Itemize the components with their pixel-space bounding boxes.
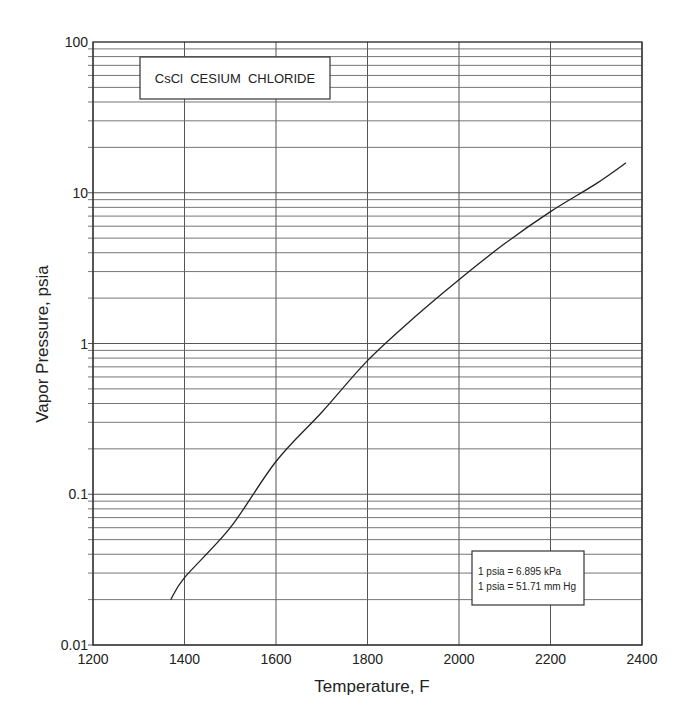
x-tick-label: 1400 (169, 651, 200, 667)
x-tick-label: 1600 (260, 651, 291, 667)
y-tick-label: 0.01 (61, 637, 88, 653)
vapor-pressure-chart: 1200140016001800200022002400 0.010.11101… (0, 0, 690, 725)
y-tick-label: 100 (65, 34, 89, 50)
y-tick-label: 1 (80, 336, 88, 352)
x-axis-ticks: 1200140016001800200022002400 (77, 651, 657, 667)
x-tick-label: 2200 (535, 651, 566, 667)
y-axis-ticks: 0.010.1110100 (61, 34, 88, 653)
x-tick-label: 2400 (626, 651, 657, 667)
x-tick-label: 1200 (77, 651, 108, 667)
x-tick-label: 2000 (443, 651, 474, 667)
x-axis-title: Temperature, F (314, 677, 429, 696)
conversion-note-box: 1 psia = 6.895 kPa 1 psia = 51.71 mm Hg (472, 551, 584, 605)
y-axis-title: Vapor Pressure, psia (33, 265, 52, 423)
vapor-pressure-curve (171, 163, 626, 600)
y-tick-label: 10 (72, 185, 88, 201)
title-box: CsCl CESIUM CHLORIDE (140, 57, 330, 99)
y-tick-label: 0.1 (69, 486, 89, 502)
conversion-note-mmhg: 1 psia = 51.71 mm Hg (478, 581, 576, 592)
conversion-note-kpa: 1 psia = 6.895 kPa (478, 566, 562, 577)
chart-title: CsCl CESIUM CHLORIDE (155, 71, 316, 86)
x-tick-label: 1800 (352, 651, 383, 667)
